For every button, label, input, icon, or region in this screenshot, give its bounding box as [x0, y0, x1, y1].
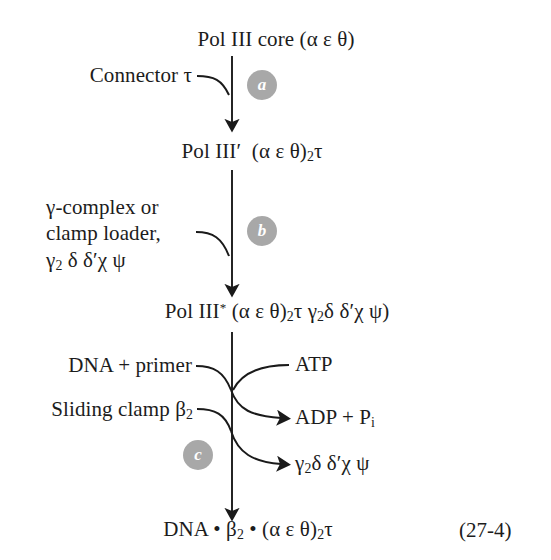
adp-text: ADP + P	[295, 405, 371, 429]
released-gamma-sym: γ	[295, 451, 304, 475]
species-final-product: DNA • β2 • (α ε θ)2τ	[163, 518, 332, 543]
pol-iii-star-mid: τ γ	[294, 299, 317, 323]
reaction-scheme-figure: Pol III core (α ε θ) Connector τ a Pol I…	[0, 0, 551, 560]
equation-number: (27-4)	[459, 518, 511, 543]
gamma-rest: δ δ′χ ψ	[62, 248, 125, 272]
curve-atp-in	[233, 365, 289, 390]
final-mid: • (α ε θ)	[244, 517, 317, 541]
released-gamma-rest: δ δ′χ ψ	[311, 451, 369, 475]
step-badge-b: b	[247, 216, 277, 246]
curve-dna-primer-in	[196, 366, 231, 390]
reactant-gamma-complex-line1: γ-complex or	[46, 196, 159, 220]
reactant-dna-primer: DNA + primer	[68, 354, 192, 378]
product-released-gamma-complex: γ2δ δ′χ ψ	[295, 452, 369, 477]
pol-iii-prime-name: Pol III′	[182, 139, 242, 163]
final-tau: τ	[324, 517, 333, 541]
pol-iii-prime-formula: (α ε θ)	[252, 139, 307, 163]
pol-iii-star-name: Pol III	[165, 299, 220, 323]
final-core-sub: 2	[317, 527, 324, 542]
species-pol-iii-star: Pol III* (α ε θ)2τ γ2δ δ′χ ψ)	[165, 300, 390, 325]
pol-iii-star-tail: δ δ′χ ψ)	[324, 299, 389, 323]
reactant-gamma-complex-line3: γ2 δ δ′χ ψ	[46, 249, 126, 274]
pol-iii-star-mark: *	[220, 300, 227, 315]
curve-sliding-clamp-in	[197, 409, 231, 431]
sliding-clamp-sub: 2	[186, 407, 193, 422]
pol-iii-prime-tail: τ	[314, 139, 323, 163]
curve-connector-tau	[197, 76, 229, 95]
product-adp-pi: ADP + Pi	[295, 406, 375, 431]
curve-gamma-complex	[196, 232, 229, 256]
reactant-gamma-complex-line2: clamp loader,	[46, 222, 161, 246]
reactant-sliding-clamp: Sliding clamp β2	[51, 398, 193, 423]
sliding-clamp-text: Sliding clamp β	[51, 397, 186, 421]
pol-iii-star-sub-a: 2	[287, 309, 294, 324]
gamma-sym: γ	[46, 248, 55, 272]
step-badge-a: a	[247, 70, 277, 100]
reactant-atp: ATP	[295, 353, 333, 377]
curve-released-gamma-out	[231, 431, 281, 464]
pol-iii-star-formula: (α ε θ)	[232, 299, 287, 323]
curve-adp-out	[231, 390, 281, 418]
reactant-connector-tau: Connector τ	[90, 64, 192, 88]
final-dna-beta: DNA • β	[163, 517, 237, 541]
species-pol-iii-core: Pol III core (α ε θ)	[197, 28, 354, 52]
step-badge-c: c	[183, 440, 213, 470]
final-beta-sub: 2	[237, 527, 244, 542]
adp-sub: i	[371, 415, 375, 430]
species-pol-iii-prime: Pol III′ (α ε θ)2τ	[182, 140, 323, 165]
